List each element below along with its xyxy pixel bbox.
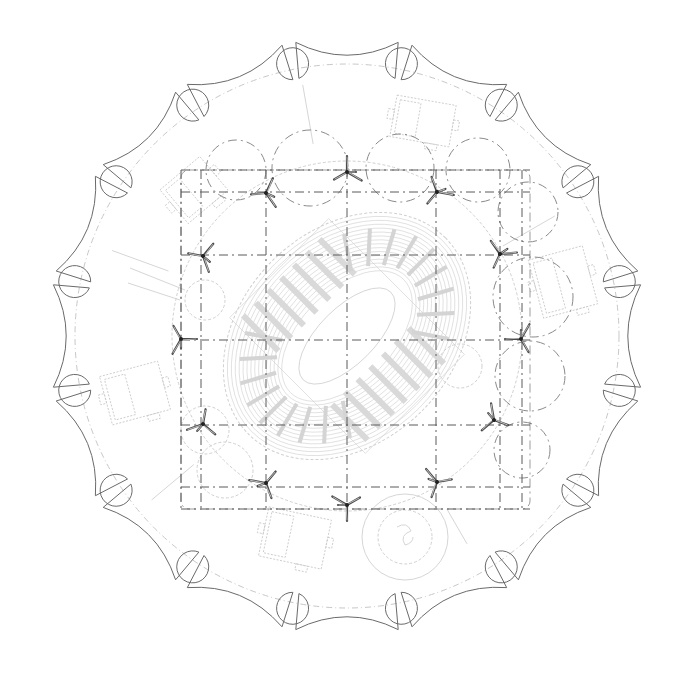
plaza-circle [362, 494, 448, 580]
structural-grid [181, 170, 530, 509]
tree-column-icon [418, 469, 452, 502]
pad-north [383, 94, 462, 154]
tree-column-icon [419, 172, 453, 205]
site-plan-drawing [0, 0, 691, 674]
pad-east [522, 244, 605, 325]
tree-column-icon [187, 409, 224, 446]
tree-column-icon [173, 326, 198, 354]
pad-west [94, 360, 178, 433]
tree-column-icon [251, 173, 286, 207]
tree-column-icon [334, 156, 362, 181]
tree-column-icon [472, 403, 509, 440]
pad-south [251, 506, 337, 577]
tree-column-icon [188, 235, 225, 272]
